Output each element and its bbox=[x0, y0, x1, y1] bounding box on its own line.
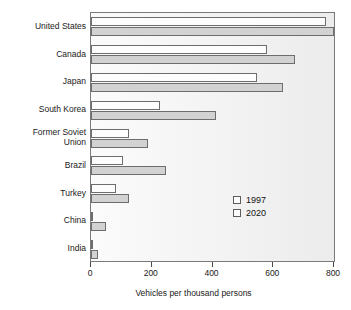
legend-item-2020: 2020 bbox=[233, 206, 295, 219]
bar-1997-china bbox=[91, 212, 93, 221]
x-tick-mark-400 bbox=[212, 262, 213, 267]
bar-2020-china bbox=[91, 222, 106, 231]
x-tick-mark-200 bbox=[151, 262, 152, 267]
bar-2020-japan bbox=[91, 83, 283, 92]
legend-label-1997: 1997 bbox=[246, 195, 266, 205]
plot-area: 1997 2020 bbox=[90, 12, 335, 262]
bar-1997-former-soviet-union bbox=[91, 129, 129, 138]
category-label-south-korea: South Korea bbox=[0, 104, 86, 114]
category-label-united-states: United States bbox=[0, 21, 86, 31]
bar-1997-south-korea bbox=[91, 101, 160, 110]
bar-2020-south-korea bbox=[91, 111, 216, 120]
bar-1997-japan bbox=[91, 73, 257, 82]
legend-item-1997: 1997 bbox=[233, 193, 295, 206]
legend-swatch-1997 bbox=[233, 196, 241, 204]
bar-2020-former-soviet-union bbox=[91, 139, 148, 148]
category-label-brazil: Brazil bbox=[0, 160, 86, 170]
category-label-japan: Japan bbox=[0, 76, 86, 86]
bar-1997-india bbox=[91, 240, 93, 249]
vehicles-per-thousand-bar-chart: United StatesCanadaJapanSouth KoreaForme… bbox=[0, 0, 351, 310]
bar-1997-brazil bbox=[91, 156, 123, 165]
x-tick-mark-800 bbox=[333, 262, 334, 267]
legend-swatch-2020 bbox=[233, 209, 241, 217]
x-tick-mark-600 bbox=[272, 262, 273, 267]
x-axis-title-text: Vehicles per thousand persons bbox=[135, 288, 251, 298]
category-axis-labels: United StatesCanadaJapanSouth KoreaForme… bbox=[0, 12, 86, 262]
bar-2020-india bbox=[91, 250, 98, 259]
x-tick-label-600: 600 bbox=[265, 268, 279, 278]
category-label-turkey: Turkey bbox=[0, 188, 86, 198]
category-label-india: India bbox=[0, 243, 86, 253]
x-axis-title: Vehicles per thousand persons bbox=[0, 288, 351, 298]
x-axis: 0200400600800 bbox=[90, 262, 335, 268]
bar-2020-turkey bbox=[91, 194, 129, 203]
bar-2020-canada bbox=[91, 55, 295, 64]
x-tick-label-800: 800 bbox=[326, 268, 340, 278]
x-tick-mark-0 bbox=[90, 262, 91, 267]
bar-1997-canada bbox=[91, 45, 267, 54]
category-label-canada: Canada bbox=[0, 49, 86, 59]
x-tick-label-200: 200 bbox=[144, 268, 158, 278]
bar-1997-united-states bbox=[91, 17, 326, 26]
bar-2020-brazil bbox=[91, 166, 166, 175]
bar-2020-united-states bbox=[91, 27, 334, 36]
chart-legend: 1997 2020 bbox=[233, 193, 295, 219]
x-tick-label-0: 0 bbox=[88, 268, 93, 278]
category-label-former-soviet-union: Former Soviet Union bbox=[0, 127, 86, 147]
category-label-china: China bbox=[0, 215, 86, 225]
legend-label-2020: 2020 bbox=[246, 208, 266, 218]
bar-1997-turkey bbox=[91, 184, 116, 193]
x-tick-label-400: 400 bbox=[204, 268, 218, 278]
